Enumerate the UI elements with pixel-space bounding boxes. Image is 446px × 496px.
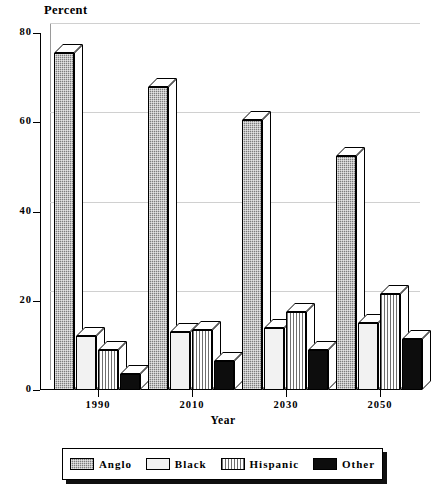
bar-front bbox=[148, 87, 168, 390]
y-tick-mark bbox=[33, 301, 40, 302]
y-axis-line bbox=[40, 33, 41, 390]
bar-front bbox=[308, 350, 328, 390]
legend-swatch-anglo-icon bbox=[70, 458, 94, 470]
bar-anglo-2030 bbox=[242, 120, 262, 390]
x-tick-mark bbox=[286, 390, 287, 397]
bar-front bbox=[242, 120, 262, 390]
legend-label: Anglo bbox=[99, 458, 132, 470]
y-tick-label: 80 bbox=[4, 26, 32, 37]
y-tick-mark bbox=[33, 212, 40, 213]
bar-front bbox=[76, 336, 96, 390]
bar-other-2030 bbox=[308, 350, 328, 390]
y-tick-mark bbox=[33, 122, 40, 123]
bar-front bbox=[98, 350, 118, 390]
bar-black-1990 bbox=[76, 336, 96, 390]
y-tick-label: 0 bbox=[4, 383, 32, 394]
legend-item-hispanic: Hispanic bbox=[221, 458, 300, 470]
bar-black-2030 bbox=[264, 328, 284, 390]
y-tick-label: 40 bbox=[4, 205, 32, 216]
legend-item-anglo: Anglo bbox=[70, 458, 132, 470]
x-tick-label: 1990 bbox=[68, 399, 128, 410]
bar-group-2010 bbox=[148, 33, 238, 390]
bar-front bbox=[192, 330, 212, 390]
x-tick-label: 2030 bbox=[256, 399, 316, 410]
legend-swatch-hispanic-icon bbox=[221, 458, 245, 470]
bar-front bbox=[120, 374, 140, 390]
x-axis-title: Year bbox=[0, 414, 446, 426]
bar-hispanic-1990 bbox=[98, 350, 118, 390]
bar-hispanic-2030 bbox=[286, 312, 306, 390]
x-tick-label: 2010 bbox=[162, 399, 222, 410]
bar-hispanic-2050 bbox=[380, 294, 400, 390]
y-axis-title: Percent bbox=[44, 3, 88, 18]
bar-front bbox=[402, 339, 422, 390]
y-tick-label: 20 bbox=[4, 294, 32, 305]
bar-hispanic-2010 bbox=[192, 330, 212, 390]
bar-front bbox=[336, 156, 356, 390]
bar-chart: Percent 020406080 1990201020302050 Year … bbox=[0, 0, 446, 496]
bar-front bbox=[358, 323, 378, 390]
bar-front bbox=[286, 312, 306, 390]
x-tick-mark bbox=[192, 390, 193, 397]
legend-item-black: Black bbox=[146, 458, 207, 470]
bar-group-2050 bbox=[336, 33, 426, 390]
bar-black-2010 bbox=[170, 332, 190, 390]
gridline bbox=[50, 23, 420, 24]
legend-swatch-other-icon bbox=[313, 458, 337, 470]
y-tick-mark bbox=[33, 33, 40, 34]
bar-other-1990 bbox=[120, 374, 140, 390]
legend-label: Hispanic bbox=[250, 458, 300, 470]
y-tick-label: 60 bbox=[4, 115, 32, 126]
bar-front bbox=[54, 53, 74, 390]
legend-swatch-black-icon bbox=[146, 458, 170, 470]
bar-front bbox=[380, 294, 400, 390]
legend-item-other: Other bbox=[313, 458, 375, 470]
bar-anglo-2050 bbox=[336, 156, 356, 390]
bar-other-2050 bbox=[402, 339, 422, 390]
bar-front bbox=[214, 361, 234, 390]
bar-front bbox=[264, 328, 284, 390]
chart-legend: AngloBlackHispanicOther bbox=[62, 448, 383, 480]
x-tick-mark bbox=[98, 390, 99, 397]
bar-anglo-1990 bbox=[54, 53, 74, 390]
legend-label: Other bbox=[342, 458, 375, 470]
y-tick-mark bbox=[33, 390, 40, 391]
legend-label: Black bbox=[175, 458, 207, 470]
x-tick-mark bbox=[380, 390, 381, 397]
bar-group-2030 bbox=[242, 33, 332, 390]
bar-black-2050 bbox=[358, 323, 378, 390]
bar-side bbox=[422, 330, 431, 390]
bar-other-2010 bbox=[214, 361, 234, 390]
x-tick-label: 2050 bbox=[350, 399, 410, 410]
bar-anglo-2010 bbox=[148, 87, 168, 390]
bar-group-1990 bbox=[54, 33, 144, 390]
plot-area: 020406080 1990201020302050 bbox=[40, 33, 420, 390]
bar-front bbox=[170, 332, 190, 390]
